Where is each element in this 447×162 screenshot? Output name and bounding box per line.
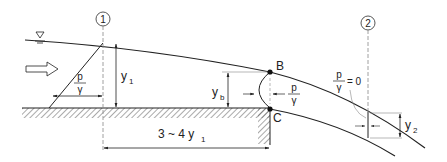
- svg-text:C: C: [273, 111, 282, 125]
- svg-text:1: 1: [100, 14, 106, 25]
- channel-bed: [22, 108, 270, 145]
- svg-text:= 0: = 0: [347, 76, 362, 87]
- svg-text:b: b: [220, 93, 225, 102]
- flow-direction-arrow-icon: [26, 62, 58, 76]
- svg-text:1: 1: [129, 77, 134, 86]
- water-surface-line: [25, 40, 425, 148]
- svg-text:B: B: [276, 59, 284, 73]
- zero-pressure-label: p γ = 0: [333, 69, 366, 118]
- svg-text:y: y: [212, 85, 218, 99]
- svg-text:3 ~ 4 y: 3 ~ 4 y: [158, 127, 194, 141]
- svg-text:p: p: [291, 82, 297, 93]
- yb-dimension: y b: [212, 72, 268, 107]
- svg-text:2: 2: [413, 126, 418, 135]
- overfall-flow-diagram: 1 p γ y 1 y b p γ B C: [0, 0, 447, 162]
- svg-text:γ: γ: [78, 84, 83, 95]
- point-b: B: [267, 59, 284, 75]
- y1-dimension: y 1: [116, 44, 134, 107]
- svg-text:γ: γ: [337, 82, 342, 93]
- brink-pressure-profile: p γ: [243, 72, 300, 108]
- svg-text:y: y: [405, 118, 411, 132]
- svg-text:1: 1: [201, 135, 206, 144]
- hydrostatic-pressure-triangle: p γ: [49, 43, 103, 108]
- svg-text:γ: γ: [292, 95, 297, 106]
- svg-text:p: p: [336, 69, 342, 80]
- section-1-marker: 1: [96, 12, 110, 150]
- water-surface-symbol-icon: [35, 32, 45, 43]
- svg-text:p: p: [77, 71, 83, 82]
- svg-text:y: y: [121, 69, 127, 83]
- svg-text:2: 2: [365, 18, 371, 29]
- distance-dimension: 3 ~ 4 y 1: [104, 127, 269, 148]
